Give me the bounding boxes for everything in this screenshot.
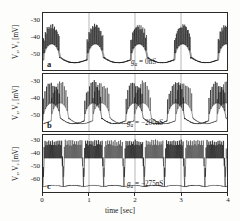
y-tick-b-2: -50 [14,112,40,119]
condition-value-c: = −275nS [133,180,163,188]
condition-label-c: ga = −275nS [127,180,163,189]
y-tick-a-0: -30 [14,17,40,24]
panel-letter-a: a [47,59,51,69]
panel-letter-b: b [47,120,52,130]
x-tick-label-4: 4 [220,196,236,204]
plot-panel-c: c ga = −275nS [42,134,228,193]
x-tick-label-1: 1 [81,196,97,204]
y-ticks-b: -30 -40 -50 [12,73,40,132]
y-tick-c-2: -50 [14,163,40,170]
plot-panel-b: b ga = −200nS [42,73,228,132]
y-tick-c-1: -40 [14,150,40,157]
y-tick-c-0: -30 [14,137,40,144]
x-tick-label-2: 2 [127,196,143,204]
plot-panel-a: a ga = 0nS [42,12,228,71]
x-tick-label-0: 0 [34,196,50,204]
y-tick-b-0: -30 [14,78,40,85]
condition-label-b: ga = −200nS [127,119,163,128]
y-tick-b-1: -40 [14,95,40,102]
y-ticks-a: -30 -40 -50 [12,12,40,71]
panel-letter-c: c [47,181,51,191]
x-tick-label-3: 3 [173,196,189,204]
condition-value-b: = −200nS [133,119,163,127]
y-tick-c-3: -60 [14,176,40,183]
y-tick-a-2: -50 [14,51,40,58]
x-axis-label: time [sec] [0,206,240,215]
condition-label-a: ga = 0nS [131,58,156,67]
y-ticks-c: -30 -40 -50 -60 [12,134,40,193]
figure-panel-group: V₁, V₂ [mV] V₁, V₂ [mV] V₁, V₂ [mV] -30 … [0,0,240,221]
condition-value-a: = 0nS [137,58,156,66]
y-tick-a-1: -40 [14,34,40,41]
